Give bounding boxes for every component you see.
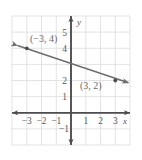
coordinate-plane-figure: −3 −2 −1 1 2 3 5 4 2 1 −1 y x (−3, 4) (3… bbox=[0, 0, 142, 160]
data-point-a bbox=[25, 46, 29, 50]
x-tick-label-2: 2 bbox=[98, 116, 103, 126]
x-tick-label-neg3: −3 bbox=[22, 116, 32, 126]
y-tick-label-1: 1 bbox=[62, 92, 67, 102]
x-tick-label-neg2: −2 bbox=[36, 116, 46, 126]
y-tick-label-2: 2 bbox=[62, 76, 67, 86]
y-tick-label-neg1: −1 bbox=[59, 124, 69, 134]
y-axis-name: y bbox=[76, 17, 81, 27]
data-point-b bbox=[113, 79, 117, 83]
x-tick-label-1: 1 bbox=[83, 116, 88, 126]
y-tick-label-5: 5 bbox=[62, 28, 67, 38]
y-tick-label-4: 4 bbox=[62, 44, 67, 54]
point-label-b: (3, 2) bbox=[80, 80, 102, 92]
point-label-a: (−3, 4) bbox=[30, 33, 57, 45]
x-tick-label-3: 3 bbox=[113, 116, 118, 126]
coordinate-plane-graph: −3 −2 −1 1 2 3 5 4 2 1 −1 y x (−3, 4) (3… bbox=[0, 0, 142, 160]
x-axis-name: x bbox=[122, 116, 127, 126]
